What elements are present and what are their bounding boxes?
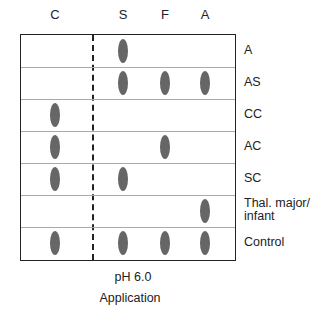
band-s: [118, 71, 128, 95]
band-a: [200, 231, 210, 255]
band-s: [118, 167, 128, 191]
band-c: [50, 231, 60, 255]
band-c: [50, 167, 60, 191]
column-label-s: S: [119, 7, 128, 22]
row-label: Control: [244, 236, 284, 249]
row-label: Thal. major/ infant: [244, 197, 310, 223]
band-a: [200, 71, 210, 95]
band-f: [160, 231, 170, 255]
gel-diagram: [20, 34, 236, 261]
row-label: CC: [244, 108, 262, 121]
column-label-a: A: [201, 7, 210, 22]
row-label: SC: [244, 172, 261, 185]
band-f: [160, 71, 170, 95]
band-c: [50, 103, 60, 127]
ph-label: pH 6.0: [115, 270, 152, 284]
band-c: [50, 135, 60, 159]
column-label-f: F: [161, 7, 169, 22]
band-s: [118, 39, 128, 63]
lane-row: [21, 35, 235, 67]
band-a: [200, 199, 210, 223]
column-label-c: C: [50, 7, 59, 22]
row-label: A: [244, 44, 252, 57]
application-label: Application: [99, 291, 160, 305]
row-label: AS: [244, 76, 261, 89]
band-s: [118, 231, 128, 255]
band-f: [160, 135, 170, 159]
row-label: AC: [244, 140, 261, 153]
